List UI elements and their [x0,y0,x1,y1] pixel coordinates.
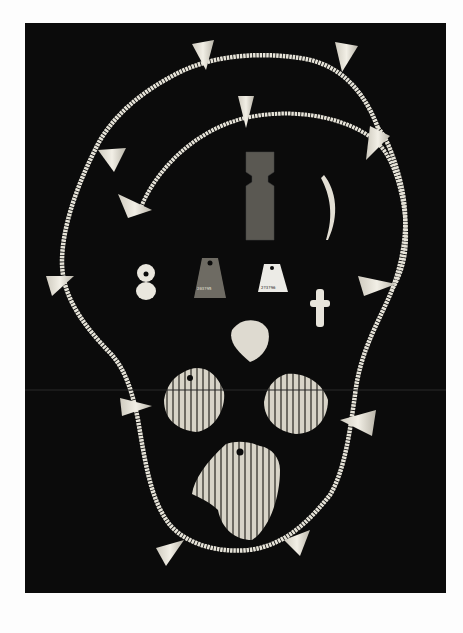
tooth-pendant [321,175,335,240]
dark-tablet-pendant: 203?95 [194,258,226,298]
scallop-shell-left [164,368,224,432]
scallop-shell-right [264,374,328,434]
stone-pendant [246,152,274,240]
figure-eight-bead [136,264,156,300]
cone-pendant [238,96,254,128]
cone-pendant [335,42,358,72]
cone-pendant [98,148,126,172]
scallop-shell-lower-broken [192,442,280,540]
cross-figurine [310,289,330,327]
cone-pendant [156,540,184,566]
catalog-number-dark: 203?95 [197,286,212,291]
catalog-number-light: 2?3?96 [261,285,276,290]
triangular-shell [231,320,269,362]
light-tablet-pendant: 2?3?96 [258,264,288,292]
cone-pendant [340,410,376,436]
artifact-illustration: 203?95 2?3?96 [0,0,463,633]
